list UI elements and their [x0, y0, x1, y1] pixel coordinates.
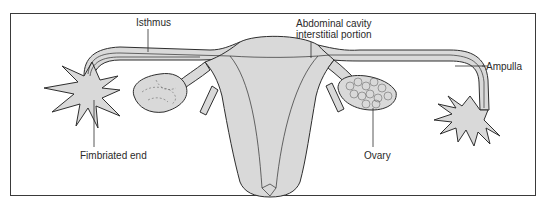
abdominal-cavity-line1: Abdominal cavity [296, 18, 372, 29]
right-fimbriated-end [434, 96, 500, 146]
left-round-ligament [200, 86, 218, 115]
left-ovary [133, 74, 187, 113]
right-ovary [338, 76, 396, 111]
ampulla-label: Ampulla [486, 61, 522, 72]
ovary-label: Ovary [364, 150, 391, 161]
fimbriated-end-label: Fimbriated end [80, 150, 147, 161]
isthmus-label: Isthmus [136, 17, 171, 28]
left-fimbriated-end [44, 62, 120, 128]
abdominal-cavity-label: Abdominal cavity interstitial portion [296, 18, 372, 40]
uterus-diagram [0, 0, 546, 209]
abdominal-cavity-line2: interstitial portion [296, 29, 372, 40]
